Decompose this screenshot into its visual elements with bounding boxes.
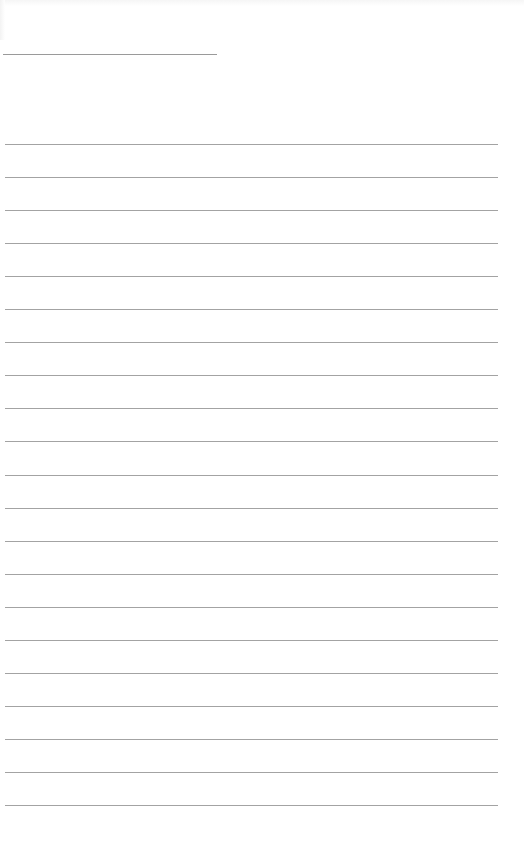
ruled-line [5,475,498,476]
ruled-line [5,640,498,641]
ruled-line [5,772,498,773]
ruled-line [5,739,498,740]
ruled-line [5,276,498,277]
ruled-line [5,574,498,575]
ruled-line [5,375,498,376]
ruled-line [5,805,498,806]
ruled-line [5,441,498,442]
ruled-line [5,210,498,211]
ruled-line [5,607,498,608]
ruled-line [5,673,498,674]
ruled-line [5,342,498,343]
ruled-line [5,508,498,509]
lined-page [0,0,524,864]
ruled-line [5,408,498,409]
ruled-line [5,541,498,542]
ruled-line [5,144,498,145]
ruled-line [5,177,498,178]
ruled-line [5,706,498,707]
ruled-lines [0,0,524,864]
ruled-line [5,309,498,310]
ruled-line [5,243,498,244]
